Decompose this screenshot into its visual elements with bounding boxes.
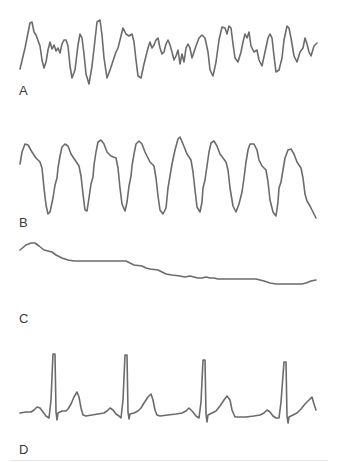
waveform-c	[0, 230, 338, 330]
panel-b: B	[0, 110, 338, 230]
panel-a: A	[0, 0, 338, 110]
waveform-d	[0, 340, 338, 450]
panel-d: D	[0, 340, 338, 450]
panel-c-label: C	[19, 312, 28, 325]
panel-b-label: B	[19, 216, 28, 229]
waveform-b	[0, 110, 338, 230]
panel-d-label: D	[19, 443, 28, 456]
panel-a-label: A	[19, 84, 28, 97]
bottom-divider	[10, 460, 328, 461]
waveform-a	[0, 0, 338, 110]
panel-c: C	[0, 230, 338, 330]
